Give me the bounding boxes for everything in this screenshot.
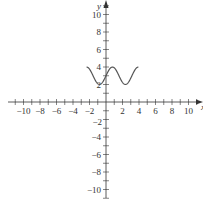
- x-tick-label: −6: [52, 106, 62, 116]
- x-tick-label: −2: [85, 106, 95, 116]
- x-tick-label: 8: [170, 106, 175, 116]
- y-tick-label: −6: [91, 150, 101, 160]
- y-axis-arrow-icon: [104, 0, 109, 8]
- y-tick-label: 4: [97, 62, 102, 72]
- function-graph: −10−8−6−4−2246810108642−2−4−6−8−10 x y: [0, 0, 203, 201]
- x-tick-label: 10: [184, 106, 194, 116]
- x-tick-label: −8: [35, 106, 45, 116]
- y-axis-label: y: [96, 1, 101, 11]
- x-tick-label: −10: [16, 106, 31, 116]
- x-tick-label: 2: [120, 106, 125, 116]
- x-tick-label: −4: [68, 106, 78, 116]
- y-tick-label: −2: [92, 117, 102, 127]
- sine-curve: [87, 67, 139, 85]
- axes: [8, 0, 203, 198]
- y-tick-label: 8: [97, 27, 102, 37]
- y-tick-label: 6: [97, 45, 102, 55]
- x-axis-label: x: [200, 102, 203, 112]
- y-tick-label: −4: [91, 132, 101, 142]
- x-tick-label: 6: [153, 106, 158, 116]
- y-tick-label: −8: [91, 167, 101, 177]
- y-tick-label: −10: [87, 185, 102, 195]
- x-tick-label: 4: [137, 106, 142, 116]
- y-tick-label: 10: [92, 10, 102, 20]
